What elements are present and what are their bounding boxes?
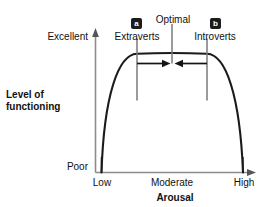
y-axis-low-label: Poor [16,161,88,172]
x-tick-label-low: Low [88,177,116,188]
x-axis-title: Arousal [140,192,210,203]
y-axis-title: Level of functioning [6,89,86,113]
annotation-label-introverts: Introverts [184,31,246,42]
y-axis-high-label: Excellent [16,31,88,42]
x-tick-label-high: High [229,177,259,188]
marker-badge-b: b [210,18,221,29]
x-tick-label-moderate: Moderate [146,177,198,188]
annotation-label-extraverts: Extraverts [106,31,168,42]
annotation-label-optimal: Optimal [150,14,196,25]
marker-badge-a: a [131,18,142,29]
